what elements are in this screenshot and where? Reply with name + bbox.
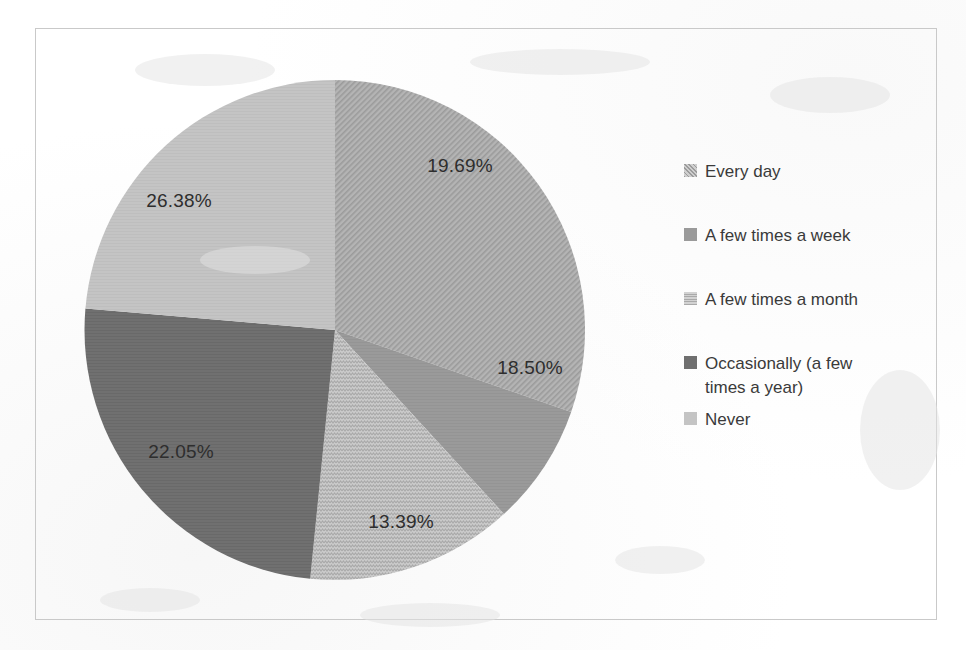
legend-item-few-times-month[interactable]: A few times a month [684, 288, 884, 312]
pie-label-occasionally: 22.05% [148, 441, 214, 463]
legend-label-few-times-month: A few times a month [705, 288, 858, 312]
legend-label-never: Never [705, 408, 750, 432]
legend-swatch-few-times-week-icon [684, 228, 697, 241]
legend-label-occasionally: Occasionally (a few times a year) [705, 352, 877, 400]
legend-label-every-day: Every day [705, 160, 781, 184]
chart-legend: Every day A few times a week A few times… [684, 160, 884, 432]
chart-page: 19.69% 18.50% 13.39% 22.05% 26.38% Every… [0, 0, 966, 650]
legend-item-every-day[interactable]: Every day [684, 160, 884, 184]
legend-swatch-never-icon [684, 412, 697, 425]
legend-swatch-occasionally-icon [684, 356, 697, 369]
pie-slices-group [84, 80, 585, 580]
pie-label-never: 26.38% [146, 190, 212, 212]
legend-swatch-every-day-icon [684, 164, 697, 177]
legend-item-few-times-week[interactable]: A few times a week [684, 224, 884, 248]
legend-swatch-few-times-month-icon [684, 292, 697, 305]
pie-label-every-day: 19.69% [427, 155, 493, 177]
legend-item-occasionally[interactable]: Occasionally (a few times a year) [684, 352, 884, 400]
legend-item-never[interactable]: Never [684, 408, 884, 432]
pie-label-few-times-week: 18.50% [497, 357, 563, 379]
legend-label-few-times-week: A few times a week [705, 224, 851, 248]
pie-label-few-times-month: 13.39% [368, 511, 434, 533]
pie-chart-plot-area: 19.69% 18.50% 13.39% 22.05% 26.38% Every… [0, 0, 966, 650]
